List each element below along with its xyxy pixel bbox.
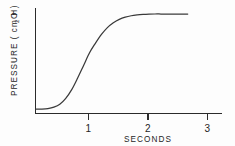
pressure-curve: [36, 14, 188, 109]
pressure-time-plot: 1 2 3 SECONDS PRESSURE ( cm H 2 O ): [0, 0, 235, 146]
x-axis-title: SECONDS: [124, 135, 172, 144]
chart-figure: 1 2 3 SECONDS PRESSURE ( cm H 2 O ): [0, 0, 235, 146]
x-tick-label-2: 2: [145, 123, 151, 134]
x-tick-label-1: 1: [86, 123, 92, 134]
x-tick-label-3: 3: [205, 123, 211, 134]
y-axis-title: PRESSURE ( cm H 2 O ): [10, 4, 20, 96]
y-axis-title-tail: O ): [10, 4, 19, 19]
